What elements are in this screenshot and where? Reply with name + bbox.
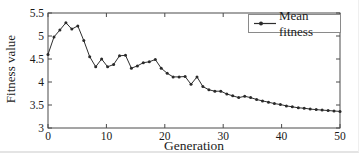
data-point-marker <box>201 85 204 88</box>
data-point-marker <box>267 101 270 104</box>
data-point-marker <box>166 72 169 75</box>
data-point-marker <box>273 102 276 105</box>
data-point-marker <box>118 54 121 57</box>
data-point-marker <box>70 28 73 31</box>
legend-line-marker-icon <box>252 18 278 29</box>
data-point-marker <box>112 63 115 66</box>
legend-label: Mean fitness <box>279 8 340 40</box>
data-point-marker <box>172 75 175 78</box>
y-tick-label: 3 <box>38 122 44 134</box>
data-point-marker <box>231 94 234 97</box>
data-point-marker <box>58 29 61 32</box>
data-point-marker <box>82 39 85 42</box>
data-point-marker <box>136 64 139 67</box>
data-point-marker <box>47 53 50 56</box>
data-point-marker <box>154 58 157 61</box>
data-point-marker <box>327 109 330 112</box>
data-point-marker <box>124 54 127 57</box>
x-axis-label: Generation <box>48 138 340 153</box>
data-point-marker <box>106 65 109 68</box>
y-tick-label: 4 <box>38 76 44 88</box>
data-point-marker <box>148 60 151 63</box>
data-point-marker <box>130 67 133 70</box>
data-point-marker <box>94 65 97 68</box>
data-point-marker <box>53 35 56 38</box>
data-point-marker <box>88 55 91 58</box>
fitness-chart-figure: 0102030405033.544.555.5 Fitness value Ge… <box>0 0 359 153</box>
data-point-marker <box>279 103 282 106</box>
data-point-marker <box>291 105 294 108</box>
legend: Mean fitness <box>248 14 341 33</box>
y-tick-label: 4.5 <box>30 53 45 65</box>
data-point-marker <box>219 90 222 93</box>
data-point-marker <box>315 108 318 111</box>
data-point-marker <box>190 83 193 86</box>
data-point-marker <box>237 96 240 99</box>
data-point-marker <box>321 109 324 112</box>
data-point-marker <box>196 75 199 78</box>
data-point-marker <box>213 90 216 93</box>
data-point-marker <box>64 21 67 24</box>
data-point-marker <box>243 95 246 98</box>
data-point-marker <box>303 107 306 110</box>
data-point-marker <box>285 104 288 107</box>
y-axis-label: Fitness value <box>3 35 19 103</box>
data-point-marker <box>255 98 258 101</box>
data-point-marker <box>76 24 79 27</box>
data-point-marker <box>178 75 181 78</box>
y-tick-label: 3.5 <box>30 99 45 111</box>
data-point-marker <box>297 106 300 109</box>
data-point-marker <box>333 110 336 113</box>
data-point-marker <box>261 99 264 102</box>
data-point-marker <box>100 58 103 61</box>
data-point-marker <box>142 61 145 64</box>
data-point-marker <box>160 67 163 70</box>
data-point-marker <box>339 110 342 113</box>
y-tick-label: 5 <box>38 30 44 42</box>
y-tick-label: 5.5 <box>30 7 45 19</box>
data-point-marker <box>309 108 312 111</box>
data-point-marker <box>249 96 252 99</box>
data-point-marker <box>207 88 210 91</box>
data-point-marker <box>225 93 228 96</box>
data-point-marker <box>184 75 187 78</box>
